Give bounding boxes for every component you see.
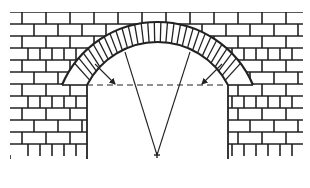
- arch-voussoirs: [62, 22, 253, 159]
- construction-lines: [87, 52, 228, 158]
- brick-wall: [10, 12, 303, 159]
- brick-arch-diagram: [0, 0, 310, 188]
- diagram-svg: [0, 0, 310, 188]
